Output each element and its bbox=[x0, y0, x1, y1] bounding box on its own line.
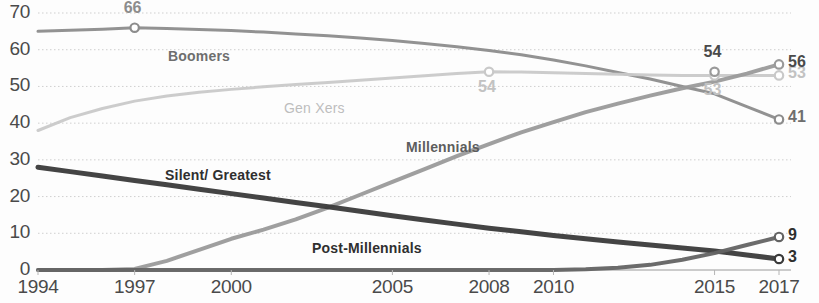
data-value-label: 41 bbox=[788, 108, 806, 126]
data-point-marker bbox=[710, 68, 718, 76]
series-line-boomers bbox=[38, 28, 779, 120]
y-axis-tick-label: 60 bbox=[0, 38, 30, 60]
x-axis-tick-label: 2017 bbox=[749, 276, 809, 298]
data-value-label: 53 bbox=[704, 81, 722, 99]
data-point-marker bbox=[775, 255, 783, 263]
y-axis-tick-label: 40 bbox=[0, 111, 30, 133]
series-line-gen-xers bbox=[38, 72, 779, 131]
y-axis-tick-label: 30 bbox=[0, 148, 30, 170]
y-axis-tick-label: 10 bbox=[0, 221, 30, 243]
series-label-boomers: Boomers bbox=[168, 48, 230, 64]
x-axis-tick-label: 2015 bbox=[685, 276, 745, 298]
series-label-post-millennials: Post-Millennials bbox=[312, 240, 422, 256]
data-point-marker bbox=[775, 71, 783, 79]
data-value-label: 54 bbox=[478, 78, 496, 96]
y-axis-tick-label: 50 bbox=[0, 74, 30, 96]
x-axis-tick-label: 2010 bbox=[523, 276, 583, 298]
data-point-marker bbox=[775, 233, 783, 241]
data-value-label: 56 bbox=[788, 53, 806, 71]
series-label-gen-xers: Gen Xers bbox=[284, 100, 345, 116]
data-value-label: 54 bbox=[704, 43, 722, 61]
chart-canvas: 706050403020100 199419972000200520082010… bbox=[0, 0, 819, 303]
x-axis-tick-label: 2008 bbox=[459, 276, 519, 298]
x-axis-tick-label: 2000 bbox=[201, 276, 261, 298]
data-point-marker bbox=[775, 60, 783, 68]
data-point-marker bbox=[775, 115, 783, 123]
data-value-label: 3 bbox=[788, 248, 797, 266]
data-value-label: 66 bbox=[124, 0, 142, 17]
x-axis-tick-label: 1997 bbox=[105, 276, 165, 298]
series-label-silent-greatest: Silent/ Greatest bbox=[165, 167, 271, 183]
series-label-millennials: Millennials bbox=[406, 139, 480, 155]
y-axis-tick-label: 70 bbox=[0, 1, 30, 23]
x-axis-tick-label: 1994 bbox=[8, 276, 68, 298]
data-point-marker bbox=[130, 23, 138, 31]
data-point-marker bbox=[485, 68, 493, 76]
x-axis-tick-label: 2005 bbox=[362, 276, 422, 298]
data-value-label: 9 bbox=[788, 226, 797, 244]
y-axis-tick-label: 20 bbox=[0, 185, 30, 207]
